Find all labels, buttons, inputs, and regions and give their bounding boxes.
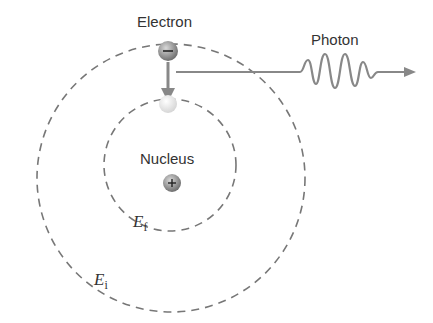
bohr-atom-diagram: Electron Photon Nucleus Ef Ei xyxy=(0,0,433,323)
electron-label: Electron xyxy=(137,13,192,30)
ghost-electron xyxy=(159,95,177,113)
nucleus-label: Nucleus xyxy=(140,150,194,167)
electron-ball xyxy=(158,41,178,61)
photon-wave xyxy=(176,54,416,88)
nucleus-ball xyxy=(163,174,181,192)
photon-label: Photon xyxy=(311,31,359,48)
final-energy-label: Ef xyxy=(133,212,147,235)
initial-energy-label: Ei xyxy=(94,270,108,293)
diagram-graphics xyxy=(0,0,433,323)
